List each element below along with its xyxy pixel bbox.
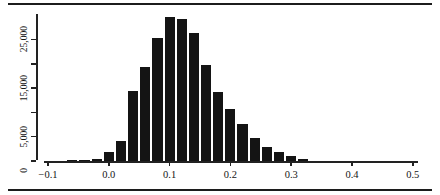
histogram-bar bbox=[176, 19, 188, 161]
histogram-bar bbox=[151, 38, 163, 161]
histogram-bar bbox=[139, 67, 151, 161]
histogram-bar bbox=[212, 92, 224, 161]
histogram-bar bbox=[127, 91, 139, 161]
histogram-bar bbox=[285, 156, 297, 161]
histogram-bar bbox=[236, 124, 248, 161]
histogram-bar bbox=[103, 152, 115, 161]
histogram-bar bbox=[297, 159, 309, 161]
histogram-bar bbox=[78, 160, 90, 161]
histogram-bars bbox=[0, 0, 440, 195]
plot-area: 05,00015,00025,000 −0.10.00.10.20.30.40.… bbox=[0, 0, 440, 195]
histogram-figure: 05,00015,00025,000 −0.10.00.10.20.30.40.… bbox=[0, 0, 440, 195]
histogram-bar bbox=[224, 109, 236, 161]
histogram-bar bbox=[115, 141, 127, 161]
histogram-bar bbox=[66, 160, 78, 161]
histogram-bar bbox=[249, 138, 261, 161]
histogram-bar bbox=[91, 159, 103, 161]
histogram-bar bbox=[188, 33, 200, 161]
histogram-bar bbox=[200, 65, 212, 161]
histogram-bar bbox=[164, 17, 176, 161]
histogram-bar bbox=[273, 152, 285, 161]
histogram-bar bbox=[261, 147, 273, 161]
